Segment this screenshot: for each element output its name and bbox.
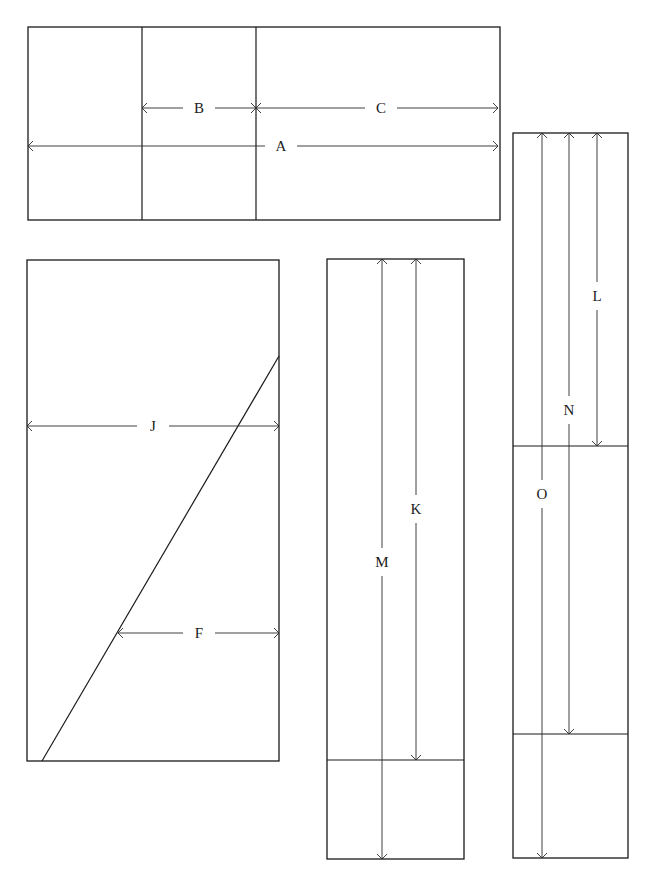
dimension-c: C — [256, 100, 498, 116]
dimension-label: J — [150, 418, 156, 434]
dimension-label: C — [376, 100, 386, 116]
dimension-label: A — [276, 138, 287, 154]
panel-outline — [27, 260, 279, 761]
dimension-n: N — [564, 133, 575, 734]
dimension-label: F — [195, 625, 203, 641]
dimension-o: O — [537, 133, 548, 858]
right-tall-panel: LNO — [513, 133, 628, 858]
dimension-label: B — [194, 100, 204, 116]
dimension-label: L — [592, 288, 601, 304]
dimension-label: N — [564, 402, 575, 418]
dimension-l: L — [592, 133, 602, 446]
panel-outline — [327, 259, 464, 859]
dimension-label: O — [537, 486, 548, 502]
dimension-label: M — [375, 554, 388, 570]
dimension-diagram: BCA JF KM LNO — [0, 0, 654, 884]
panel-outline — [513, 133, 628, 858]
dimension-b: B — [142, 100, 256, 116]
dimension-label: K — [411, 501, 422, 517]
diagonal-line — [42, 356, 279, 761]
dimension-a: A — [28, 138, 498, 154]
diagonal-rectangle-panel: JF — [27, 260, 279, 761]
dimension-k: K — [411, 259, 422, 760]
panel-outline — [28, 27, 500, 220]
top-rectangle-panel: BCA — [28, 27, 500, 220]
dimension-f: F — [118, 625, 279, 641]
dimension-m: M — [375, 259, 388, 859]
middle-tall-panel: KM — [327, 259, 464, 859]
